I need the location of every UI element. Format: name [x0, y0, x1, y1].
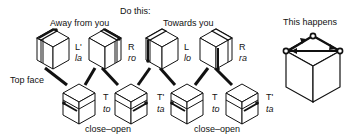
top-3-syllable: lo	[184, 53, 191, 63]
cube-top-3-L	[146, 29, 178, 69]
top-4-move: R	[239, 42, 246, 52]
top-4-syllable: ra	[239, 53, 247, 63]
bottom-4-move: T'	[266, 92, 273, 102]
bottom-1-move: T	[103, 92, 109, 102]
bottom-3-syllable: to	[212, 104, 220, 114]
cube-top-1-Lprime	[37, 28, 69, 69]
top-1-move: L'	[75, 42, 82, 52]
cube-top-4-R	[200, 29, 232, 71]
close-open-caption-1: close–open	[85, 124, 131, 134]
top-face-label: Top face	[10, 75, 44, 85]
bottom-1-syllable: to	[103, 104, 111, 114]
cube-bottom-4-Tprime	[226, 84, 259, 124]
top-3-move: L	[184, 42, 189, 52]
bottom-4-syllable: ta	[266, 104, 274, 114]
cube-top-2-R	[89, 29, 121, 69]
connector-lines	[45, 68, 232, 85]
cube-bottom-2-Tprime	[115, 84, 148, 124]
bottom-2-syllable: ta	[157, 104, 165, 114]
bottom-2-move: T'	[157, 92, 164, 102]
top-2-syllable: ro	[128, 53, 136, 63]
this-happens-heading: This happens	[283, 17, 337, 27]
close-open-caption-2: close–open	[194, 124, 240, 134]
cube-bottom-1-T	[62, 84, 95, 124]
towards-you-heading: Towards you	[163, 18, 214, 28]
top-2-move: R	[128, 42, 135, 52]
cube-bottom-3-T	[170, 84, 203, 124]
do-this-heading: Do this:	[120, 6, 151, 16]
away-from-you-heading: Away from you	[50, 18, 109, 28]
top-1-syllable: la	[75, 53, 82, 63]
bottom-3-move: T	[212, 92, 218, 102]
